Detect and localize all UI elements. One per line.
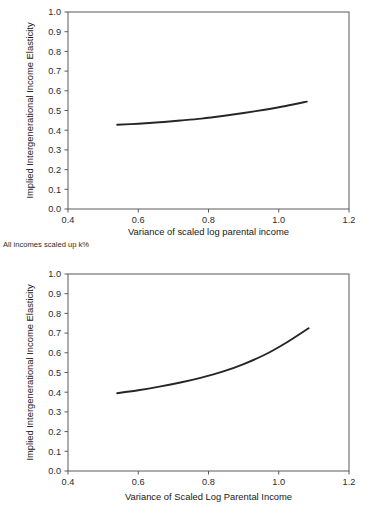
x-tick-label: 0.4 — [62, 215, 75, 225]
y-tick-label: 0.1 — [48, 447, 61, 457]
y-tick-label: 0.9 — [48, 27, 61, 37]
x-axis-title: Variance of scaled log parental income — [128, 226, 289, 237]
figure-note: All incomes scaled up k% — [3, 240, 89, 249]
y-tick-label: 0.2 — [48, 165, 61, 175]
y-tick-label: 0.3 — [48, 407, 61, 417]
y-tick-label: 0.9 — [48, 289, 61, 299]
x-tick-label: 1.2 — [343, 477, 356, 487]
data-curve — [117, 102, 307, 125]
chart-top: 0.00.10.20.30.40.50.60.70.80.91.00.40.60… — [0, 0, 374, 240]
y-tick-label: 0.2 — [48, 427, 61, 437]
x-tick-label: 0.4 — [62, 477, 75, 487]
y-tick-label: 0.5 — [48, 106, 61, 116]
y-tick-label: 0.8 — [48, 309, 61, 319]
plot-frame — [68, 274, 349, 471]
y-tick-label: 0.5 — [48, 368, 61, 378]
chart-bottom: 0.00.10.20.30.40.50.60.70.80.91.00.40.60… — [0, 260, 374, 527]
plot-area-top: 0.00.10.20.30.40.50.60.70.80.91.00.40.60… — [0, 0, 374, 240]
y-tick-label: 0.3 — [48, 145, 61, 155]
plot-area-bottom: 0.00.10.20.30.40.50.60.70.80.91.00.40.60… — [0, 260, 374, 527]
x-tick-label: 1.0 — [272, 477, 285, 487]
data-curve — [117, 328, 308, 393]
y-tick-label: 0.6 — [48, 348, 61, 358]
y-tick-label: 0.6 — [48, 86, 61, 96]
y-tick-label: 0.4 — [48, 388, 61, 398]
y-tick-label: 1.0 — [48, 7, 61, 17]
y-tick-label: 0.7 — [48, 66, 61, 76]
y-tick-label: 0.1 — [48, 185, 61, 195]
y-tick-label: 1.0 — [48, 269, 61, 279]
x-tick-label: 1.0 — [272, 215, 285, 225]
x-tick-label: 1.2 — [343, 215, 356, 225]
plot-frame — [68, 12, 349, 209]
y-tick-label: 0.0 — [48, 466, 61, 476]
y-tick-label: 0.7 — [48, 328, 61, 338]
y-tick-label: 0.8 — [48, 47, 61, 57]
y-tick-label: 0.0 — [48, 204, 61, 214]
x-tick-label: 0.6 — [132, 215, 145, 225]
y-axis-title: Implied Intergenerational Income Elastic… — [24, 284, 35, 460]
x-axis-title: Variance of Scaled Log Parental Income — [125, 491, 292, 502]
x-tick-label: 0.6 — [132, 477, 145, 487]
x-tick-label: 0.8 — [202, 477, 215, 487]
x-tick-label: 0.8 — [202, 215, 215, 225]
y-axis-title: Implied Intergenerational Income Elastic… — [24, 22, 35, 198]
y-tick-label: 0.4 — [48, 126, 61, 136]
